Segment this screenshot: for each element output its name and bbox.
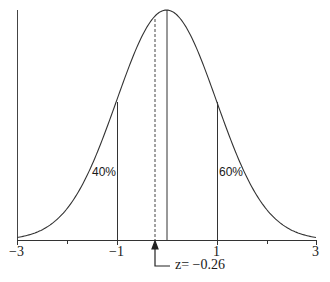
z-pointer-arrow — [152, 241, 170, 266]
region-label-left: 40% — [92, 165, 116, 179]
distribution-svg — [0, 0, 330, 282]
tick-label-minus-1: −1 — [109, 244, 124, 260]
tick-label-plus-3: 3 — [312, 244, 319, 260]
normal-distribution-figure: −3 −1 1 3 40% 60% z= −0.26 — [0, 0, 330, 282]
z-value-label: z= −0.26 — [175, 257, 225, 273]
tick-label-minus-3: −3 — [9, 244, 24, 260]
region-label-right: 60% — [219, 165, 243, 179]
